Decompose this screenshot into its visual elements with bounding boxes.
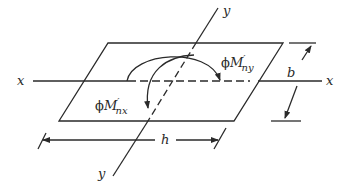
moment-nx-label: ϕM′nx xyxy=(95,96,128,116)
y-axis-top-label: y xyxy=(222,3,231,18)
y-axis-bottom-label: y xyxy=(97,166,106,181)
section-outline xyxy=(59,43,283,121)
x-axis-right-label: x xyxy=(326,73,334,88)
dimension-b: b xyxy=(271,43,316,121)
biaxial-bending-diagram: x x y y ϕM′ny ϕM′nx b h xyxy=(0,0,354,183)
dimension-h-label: h xyxy=(161,132,169,147)
moment-ny-label: ϕM′ny xyxy=(221,53,254,73)
dimension-b-label: b xyxy=(287,65,295,80)
moment-ny-arrow xyxy=(127,57,220,81)
y-axis xyxy=(113,8,218,176)
x-axis-left-label: x xyxy=(17,73,25,88)
